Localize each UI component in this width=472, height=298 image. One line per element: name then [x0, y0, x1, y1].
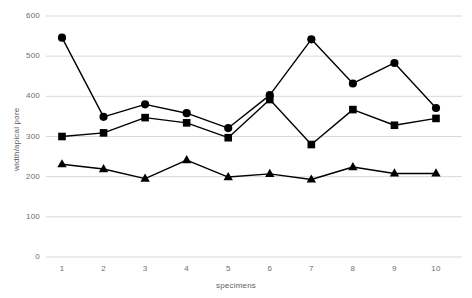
x-tick-label: 10	[424, 264, 448, 273]
x-tick-label: 5	[216, 264, 240, 273]
data-point-triangle	[182, 155, 191, 163]
data-point-circle	[183, 109, 191, 117]
series-line	[62, 100, 436, 145]
y-axis-title: width/apical pore	[12, 107, 21, 170]
chart-container: 6005004003002001000 12345678910 width/ap…	[0, 0, 472, 298]
x-tick-label: 3	[133, 264, 157, 273]
y-tick-label: 600	[12, 11, 40, 20]
data-point-square	[100, 129, 108, 137]
series-line	[62, 38, 436, 128]
data-point-square	[224, 134, 232, 142]
data-point-triangle	[348, 162, 357, 170]
plot-area	[0, 0, 472, 298]
gridlines	[46, 16, 462, 257]
data-point-triangle	[57, 159, 66, 167]
data-point-square	[391, 121, 399, 129]
data-point-square	[141, 114, 149, 122]
data-point-triangle	[265, 169, 274, 177]
data-point-circle	[432, 104, 440, 112]
series-square	[58, 96, 440, 149]
y-tick-label: 200	[12, 172, 40, 181]
data-point-circle	[349, 79, 357, 87]
y-tick-label: 0	[12, 252, 40, 261]
data-point-square	[432, 115, 440, 123]
data-point-square	[308, 141, 316, 149]
data-point-square	[349, 106, 357, 114]
y-tick-label: 100	[12, 212, 40, 221]
data-point-triangle	[431, 168, 440, 176]
data-point-circle	[390, 59, 398, 67]
data-point-square	[266, 96, 274, 104]
x-axis-title: specimens	[0, 281, 472, 290]
x-tick-label: 4	[175, 264, 199, 273]
x-tick-label: 6	[258, 264, 282, 273]
y-tick-label: 500	[12, 51, 40, 60]
series-triangle	[57, 155, 440, 182]
data-point-circle	[141, 100, 149, 108]
x-tick-label: 7	[299, 264, 323, 273]
x-tick-label: 1	[50, 264, 74, 273]
data-point-circle	[307, 35, 315, 43]
x-tick-label: 8	[341, 264, 365, 273]
data-point-circle	[58, 34, 66, 42]
data-point-circle	[99, 113, 107, 121]
series-circle	[58, 34, 440, 133]
x-tick-label: 2	[92, 264, 116, 273]
y-tick-label: 400	[12, 91, 40, 100]
data-point-circle	[224, 124, 232, 132]
x-tick-label: 9	[382, 264, 406, 273]
data-point-square	[58, 133, 66, 141]
data-point-square	[183, 119, 191, 127]
